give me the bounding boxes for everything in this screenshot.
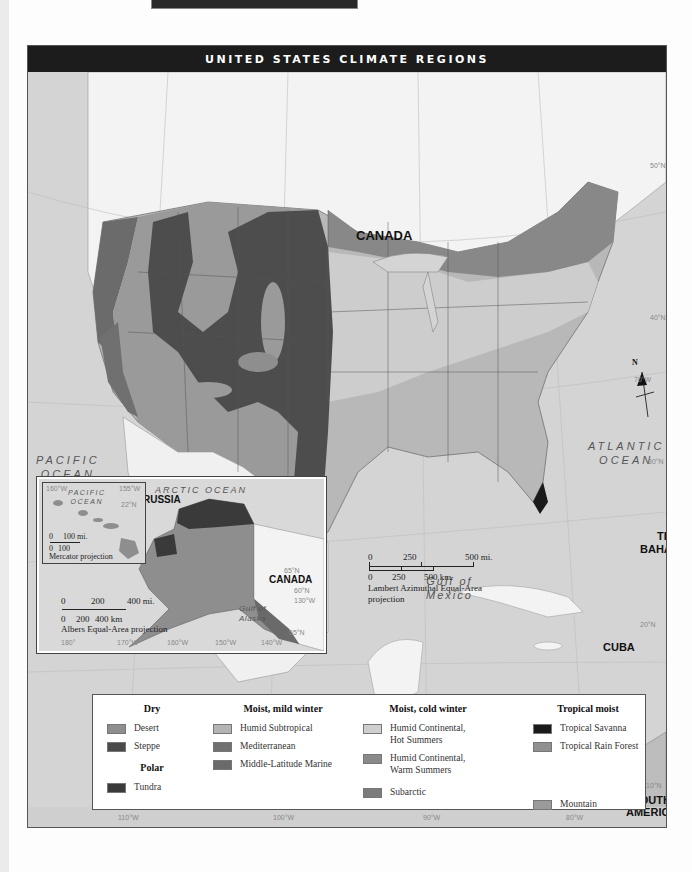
legend-group-tropical: Tropical moist Tropical Savanna Tropical… <box>533 703 643 816</box>
legend-item-desert: Desert <box>107 722 197 734</box>
map-title: UNITED STATES CLIMATE REGIONS <box>28 46 666 72</box>
hawaii-inset: 160°W 155°W 22°N PACIFICOCEAN 0 100 mi. … <box>42 482 146 564</box>
lat-40-label: 40°N <box>650 314 666 321</box>
lat-10-label: 10°N <box>646 782 662 789</box>
label-canada: CANADA <box>356 228 412 243</box>
header-bar <box>151 0 358 9</box>
legend-item-marine: Middle-Latitude Marine <box>213 758 353 770</box>
label-gulf-of-alaska: Gulf ofAlaska <box>239 604 266 624</box>
legend-item-mountain: Mountain <box>533 798 643 810</box>
swatch-steppe <box>107 742 126 752</box>
label-russia: RUSSIA <box>143 494 181 505</box>
lon-70-label: 70°W <box>634 376 651 383</box>
legend-item-humid-subtropical: Humid Subtropical <box>213 722 353 734</box>
lon-110-label: 110°W <box>118 814 139 821</box>
legend-item-tropical-rain-forest: Tropical Rain Forest <box>533 740 643 752</box>
compass-north-label: N <box>632 358 638 367</box>
lat-20-label: 20°N <box>640 621 656 628</box>
legend: Dry Desert Steppe Polar Tundra Moist, mi… <box>92 694 646 810</box>
legend-group-dry: Dry Desert Steppe Polar Tundra <box>107 703 197 799</box>
legend-item-subarctic: Subarctic <box>363 786 493 798</box>
legend-item-hc-hot: Humid Continental,Hot Summers <box>363 722 493 746</box>
legend-group-polar: Polar <box>107 762 197 773</box>
legend-item-steppe: Steppe <box>107 740 197 752</box>
label-bahamas: THEBAHAMAS <box>640 530 667 556</box>
lon-90-label: 90°W <box>423 814 440 821</box>
swatch-desert <box>107 724 126 734</box>
legend-item-mediterranean: Mediterranean <box>213 740 353 752</box>
legend-item-tundra: Tundra <box>107 781 197 793</box>
legend-item-hc-warm: Humid Continental,Warm Summers <box>363 752 493 776</box>
page-edge <box>0 0 9 872</box>
label-alaska-canada: CANADA <box>269 574 312 585</box>
lon-100-label: 100°W <box>273 814 294 821</box>
lat-30-label: 30°N <box>648 458 664 465</box>
label-hawaii-pacific: PACIFICOCEAN <box>68 488 106 506</box>
alaska-inset: ARCTIC OCEAN RUSSIA CANADA Gulf ofAlaska… <box>37 477 326 653</box>
swatch-tundra <box>107 783 126 793</box>
legend-item-tropical-savanna: Tropical Savanna <box>533 722 643 734</box>
legend-group-moist-cold: Moist, cold winter Humid Continental,Hot… <box>363 703 493 804</box>
climate-map: UNITED STATES CLIMATE REGIONS <box>27 45 667 828</box>
label-cuba: CUBA <box>603 641 635 653</box>
lat-50-label: 50°N <box>650 162 666 169</box>
legend-group-moist-mild: Moist, mild winter Humid Subtropical Med… <box>213 703 353 776</box>
